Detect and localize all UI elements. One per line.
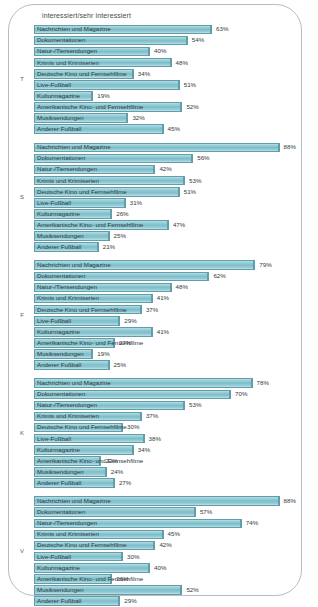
bar-value-label: 37% (146, 306, 158, 314)
bar-category-label: Dokumentationen (37, 154, 86, 162)
bar-group-s: SNachrichten und Magazine88%Dokumentatio… (34, 142, 312, 253)
bar-row: Dokumentationen62% (34, 271, 312, 282)
bar-value-label: 19% (97, 350, 109, 358)
bar-category-label: Amerikanische Kino- und Fernsehfilme (37, 103, 143, 111)
bar-value-label: 48% (176, 59, 188, 67)
bar-row: Krimis und Krimiserien48% (34, 57, 312, 68)
bar-row: Anderer Fußball45% (34, 124, 312, 135)
bar-category-label: Kulturmagazine (37, 328, 80, 336)
bar-row: Nachrichten und Magazine88% (34, 496, 312, 507)
bar-value-label: 37% (146, 412, 158, 420)
bar-row: Natur-/Tiersendungen74% (34, 518, 312, 529)
bar-value-label: 34% (138, 70, 150, 78)
bar-row: Dokumentationen70% (34, 389, 312, 400)
bar-category-label: Anderer Fußball (37, 479, 81, 487)
group-letter-s: S (17, 194, 27, 200)
bar-group-k: KNachrichten und Magazine78%Dokumentatio… (34, 378, 312, 489)
bar-category-label: Musiksendungen (37, 350, 84, 358)
bar-value-label: 53% (189, 401, 201, 409)
bar-category-label: Live-Fußball (37, 553, 71, 561)
bar-value-label: 27% (119, 479, 131, 487)
bar-value-label: 51% (184, 188, 196, 196)
bar-group-v: VNachrichten und Magazine88%Dokumentatio… (34, 496, 312, 607)
bar-row: Dokumentationen57% (34, 507, 312, 518)
bar-value-label: 79% (259, 261, 271, 269)
bar-category-label: Live-Fußball (37, 199, 71, 207)
bar-value-label: 19% (97, 92, 109, 100)
bar-category-label: Musiksendungen (37, 468, 84, 476)
bar-row: Deutsche Kino und Fernsehfilme34% (34, 68, 312, 79)
bar-value-label: 40% (154, 47, 166, 55)
bar-category-label: Kulturmagazine (37, 564, 80, 572)
bar-category-label: Deutsche Kino und Fernsehfilme (37, 423, 127, 431)
bar-row: Nachrichten und Magazine79% (34, 260, 312, 271)
bar-category-label: Nachrichten und Magazine (37, 379, 111, 387)
bar-category-label: Nachrichten und Magazine (37, 143, 111, 151)
bar-row: Dokumentationen54% (34, 35, 312, 46)
bar-value-label: 51% (184, 81, 196, 89)
bar-row: Live-Fußball30% (34, 551, 312, 562)
bar-value-label: 21% (103, 243, 115, 251)
bar-value-label: 48% (176, 283, 188, 291)
bar-group-f: FNachrichten und Magazine79%Dokumentatio… (34, 260, 312, 371)
bar-value-label: 29% (124, 317, 136, 325)
bar-category-label: Natur-/Tiersendungen (37, 519, 97, 527)
bar-category-label: Anderer Fußball (37, 125, 81, 133)
bar-row: Kulturmagazine41% (34, 326, 312, 337)
bar-category-label: Musiksendungen (37, 232, 84, 240)
bar-category-label: Natur-/Tiersendungen (37, 283, 97, 291)
bar-value-label: 31% (130, 199, 142, 207)
bar-rows: Nachrichten und Magazine79%Dokumentation… (34, 260, 312, 371)
chart-frame: interessiert/sehr interessiert TNachrich… (8, 4, 302, 596)
bar-category-label: Anderer Fußball (37, 243, 81, 251)
group-letter-k: K (17, 430, 27, 436)
bar-row: Kulturmagazine26% (34, 209, 312, 220)
bar-category-label: Dokumentationen (37, 36, 86, 44)
bar-row: Deutsche Kino und Fernsehfilme51% (34, 186, 312, 197)
bar-value-label: 57% (200, 508, 212, 516)
bar-row: Nachrichten und Magazine78% (34, 378, 312, 389)
bar-value-label: 27% (119, 339, 131, 347)
bar-row: Musiksendungen25% (34, 231, 312, 242)
bar-value-label: 52% (186, 103, 198, 111)
bar-row: Anderer Fußball21% (34, 242, 312, 253)
bar-category-label: Nachrichten und Magazine (37, 25, 111, 33)
bar-value-label: 45% (168, 530, 180, 538)
bar-category-label: Anderer Fußball (37, 597, 81, 605)
bar-value-label: 88% (284, 143, 296, 151)
bar-row: Deutsche Kino und Fernsehfilme30% (34, 422, 312, 433)
bar-category-label: Krimis und Krimiserien (37, 177, 99, 185)
bar-value-label: 70% (235, 390, 247, 398)
bar-row: Amerikanische Kino- und Fernsehfilme47% (34, 220, 312, 231)
bar-category-label: Dokumentationen (37, 508, 86, 516)
bar-value-label: 56% (197, 154, 209, 162)
bar-value-label: 22% (105, 457, 117, 465)
bar-row: Amerikanische Kino- und Fernsehfilme26% (34, 573, 312, 584)
bar-row: Deutsche Kino und Fernsehfilme42% (34, 540, 312, 551)
bar-category-label: Dokumentationen (37, 390, 86, 398)
bar-category-label: Musiksendungen (37, 114, 84, 122)
bar-value-label: 30% (127, 423, 139, 431)
bar-category-label: Musiksendungen (37, 586, 84, 594)
bar-value-label: 62% (213, 272, 225, 280)
bar-value-label: 25% (114, 361, 126, 369)
bar-value-label: 38% (149, 435, 161, 443)
bar-row: Dokumentationen56% (34, 153, 312, 164)
bar-row: Nachrichten und Magazine63% (34, 24, 312, 35)
bar-row: Krimis und Krimiserien53% (34, 175, 312, 186)
bar-value-label: 45% (168, 125, 180, 133)
bar-row: Natur-/Tiersendungen40% (34, 46, 312, 57)
bar-category-label: Natur-/Tiersendungen (37, 47, 97, 55)
bar-row: Natur-/Tiersendungen42% (34, 164, 312, 175)
bar-row: Live-Fußball31% (34, 197, 312, 208)
bar-value-label: 32% (132, 114, 144, 122)
bar-category-label: Kulturmagazine (37, 446, 80, 454)
bar-value-label: 42% (159, 165, 171, 173)
group-letter-t: T (17, 76, 27, 82)
bar-value-label: 29% (124, 597, 136, 605)
bar-row: Musiksendungen19% (34, 349, 312, 360)
bar-category-label: Kulturmagazine (37, 92, 80, 100)
bar-value-label: 54% (192, 36, 204, 44)
bar-row: Musiksendungen52% (34, 585, 312, 596)
bar-rows: Nachrichten und Magazine88%Dokumentation… (34, 496, 312, 607)
